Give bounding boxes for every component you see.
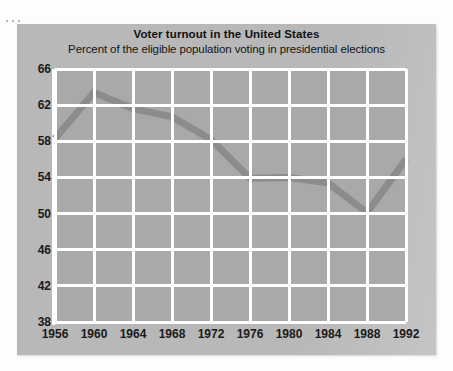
y-axis-tick-label: 54 <box>17 170 51 184</box>
gridline-vertical <box>54 69 57 322</box>
y-axis-tick-label: 58 <box>17 134 51 148</box>
corner-dots <box>6 20 20 22</box>
corner-dot <box>18 20 20 22</box>
x-axis-tick-label: 1964 <box>120 327 147 341</box>
y-axis-tick-label: 42 <box>17 279 51 293</box>
corner-dot <box>6 20 8 22</box>
page-background: Voter turnout in the United States Perce… <box>0 0 453 371</box>
y-axis-tick-label: 62 <box>17 98 51 112</box>
gridline-vertical <box>288 69 291 322</box>
plot-area <box>55 69 406 322</box>
gridline-horizontal <box>55 176 406 179</box>
gridline-vertical <box>327 69 330 322</box>
x-axis-tick-label: 1956 <box>42 327 69 341</box>
gridline-horizontal <box>55 68 406 71</box>
x-axis-tick-label: 1968 <box>159 327 186 341</box>
y-axis-tick-labels: 6662585450464238 <box>17 24 51 355</box>
chart-title: Voter turnout in the United States <box>17 28 436 40</box>
gridline-vertical <box>249 69 252 322</box>
corner-dot <box>12 20 14 22</box>
y-axis-tick-label: 66 <box>17 62 51 76</box>
gridline-horizontal <box>55 284 406 287</box>
gridline-horizontal <box>55 140 406 143</box>
x-axis-tick-label: 1960 <box>81 327 108 341</box>
gridline-vertical <box>405 69 408 322</box>
x-axis-tick-label: 1984 <box>315 327 342 341</box>
x-axis-tick-label: 1992 <box>393 327 420 341</box>
chart-panel: Voter turnout in the United States Perce… <box>17 24 436 355</box>
gridline-vertical <box>132 69 135 322</box>
gridline-horizontal <box>55 212 406 215</box>
gridline-vertical <box>171 69 174 322</box>
gridline-vertical <box>210 69 213 322</box>
x-axis-tick-label: 1972 <box>198 327 225 341</box>
y-axis-tick-label: 46 <box>17 243 51 257</box>
gridline-horizontal <box>55 104 406 107</box>
x-axis-tick-label: 1976 <box>237 327 264 341</box>
gridline-vertical <box>93 69 96 322</box>
y-axis-tick-label: 50 <box>17 207 51 221</box>
gridline-vertical <box>366 69 369 322</box>
gridline-horizontal <box>55 248 406 251</box>
chart-subtitle: Percent of the eligible population votin… <box>17 43 436 55</box>
gridline-horizontal <box>55 321 406 324</box>
x-axis-tick-label: 1980 <box>276 327 303 341</box>
x-axis-tick-label: 1988 <box>354 327 381 341</box>
